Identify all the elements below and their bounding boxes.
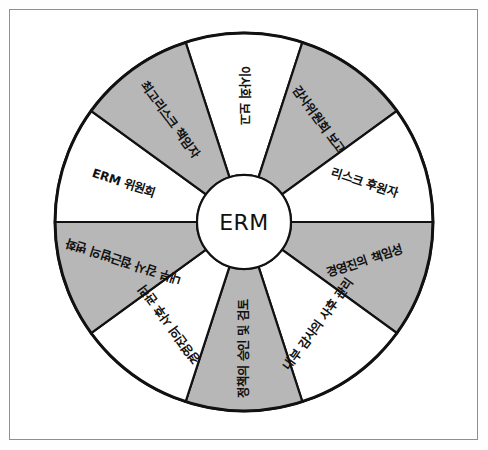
erm-wheel-container: ERM 이사회 보고감사위원회 보고리스크 후원자경영진의 책임성내부 감사의 … (0, 0, 488, 450)
diagram-page: ERM 이사회 보고감사위원회 보고리스크 후원자경영진의 책임성내부 감사의 … (0, 0, 488, 450)
wheel-hub-label: ERM (219, 210, 269, 235)
wheel-segment-label: 정책의 승인 및 검토 (236, 299, 251, 398)
erm-wheel-svg: ERM 이사회 보고감사위원회 보고리스크 후원자경영진의 책임성내부 감사의 … (0, 0, 488, 450)
wheel-segment-label: 이사회 보고 (237, 66, 252, 124)
